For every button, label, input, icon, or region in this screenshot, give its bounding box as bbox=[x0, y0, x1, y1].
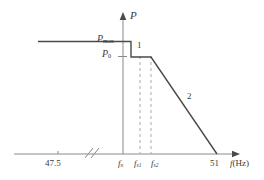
y-axis-label: P bbox=[130, 10, 137, 21]
x-tick-label-51: 51 bbox=[210, 159, 219, 168]
fs1-subscript: s1 bbox=[137, 162, 142, 168]
diagram-canvas bbox=[0, 0, 264, 180]
curve-label-1: 1 bbox=[137, 41, 142, 50]
x-axis-label: f(Hz) bbox=[230, 159, 249, 168]
x-axis-label-unit: (Hz) bbox=[233, 158, 250, 168]
curve-label-2: 2 bbox=[187, 92, 192, 101]
y-axis-arrowhead bbox=[120, 12, 127, 20]
fn-subscript: n bbox=[121, 162, 124, 168]
p0-subscript: 0 bbox=[108, 52, 111, 59]
fs2-subscript: s2 bbox=[154, 162, 159, 168]
x-tick-label-fs1: fs1 bbox=[134, 159, 141, 169]
power-frequency-droop-diagram: P Pmax P0 1 2 47.5 fn fs1 fs2 51 f(Hz) bbox=[0, 0, 264, 180]
x-tick-label-fn: fn bbox=[118, 159, 123, 169]
y-tick-label-pmax: Pmax bbox=[97, 34, 114, 45]
pmax-subscript: max bbox=[103, 37, 114, 44]
x-tick-label-47-5: 47.5 bbox=[45, 159, 61, 168]
x-axis-arrowhead bbox=[232, 151, 240, 158]
y-tick-label-p0: P0 bbox=[102, 49, 111, 60]
x-tick-label-fs2: fs2 bbox=[151, 159, 158, 169]
